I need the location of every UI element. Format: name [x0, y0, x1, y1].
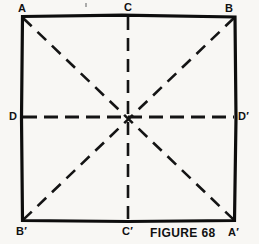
- dashed-construction-lines: [23, 17, 234, 220]
- vertex-label-a: A: [18, 3, 26, 14]
- vertex-label-b-prime: B′: [16, 226, 27, 237]
- vertex-label-d-prime: D′: [238, 111, 249, 122]
- vertex-label-b: B: [225, 3, 233, 14]
- vertex-label-d: D: [9, 111, 17, 122]
- vertex-label-a-prime: A′: [228, 227, 239, 238]
- figure-caption: FIGURE 68: [150, 227, 216, 239]
- vertex-label-c: C: [124, 2, 132, 13]
- vertex-label-c-prime: C′: [122, 226, 133, 237]
- diagram-canvas: [0, 0, 259, 244]
- figure-68-diagram: A B C D D′ B′ C′ A′ FIGURE 68: [0, 0, 259, 244]
